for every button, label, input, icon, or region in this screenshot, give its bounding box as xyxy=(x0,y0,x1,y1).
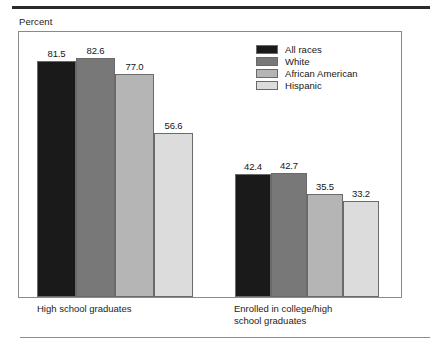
bar-value-label: 56.6 xyxy=(150,120,197,131)
bar-value-label: 77.0 xyxy=(111,61,158,72)
legend-swatch-african-american xyxy=(256,69,278,78)
legend-item-all-races: All races xyxy=(256,43,358,55)
bar xyxy=(307,194,343,297)
bar xyxy=(154,133,193,297)
chart-page: Percent 81.582.677.056.642.442.735.533.2… xyxy=(0,0,433,345)
bar xyxy=(37,61,76,297)
legend-item-hispanic: Hispanic xyxy=(256,80,358,92)
legend: All races White African American Hispani… xyxy=(256,43,358,92)
bar xyxy=(115,74,154,297)
bar-value-label: 82.6 xyxy=(72,45,119,56)
legend-item-white: White xyxy=(256,55,358,67)
x-axis-label-group-1: High school graduates xyxy=(37,303,207,315)
bar xyxy=(76,58,115,297)
bar-value-label: 33.2 xyxy=(339,188,383,199)
legend-item-african-american: African American xyxy=(256,67,358,79)
legend-swatch-all-races xyxy=(256,45,278,54)
bar xyxy=(343,201,379,297)
bar-value-label: 42.7 xyxy=(267,160,311,171)
top-divider-rule xyxy=(12,6,430,9)
legend-swatch-hispanic xyxy=(256,81,278,90)
bar xyxy=(235,174,271,297)
bar xyxy=(271,173,307,297)
legend-label-african-american: African American xyxy=(285,68,358,79)
legend-label-all-races: All races xyxy=(285,44,322,55)
legend-label-hispanic: Hispanic xyxy=(285,80,322,91)
x-axis-label-group-2: Enrolled in college/high school graduate… xyxy=(234,303,394,326)
plot-frame: 81.582.677.056.642.442.735.533.2 All rac… xyxy=(18,31,402,298)
bottom-divider-rule xyxy=(20,337,430,338)
legend-label-white: White xyxy=(285,56,310,67)
legend-swatch-white xyxy=(256,57,278,66)
y-axis-title: Percent xyxy=(19,16,52,27)
